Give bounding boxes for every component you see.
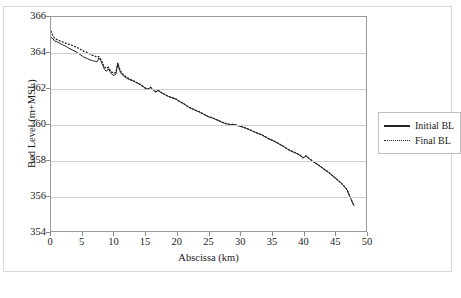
gridline xyxy=(51,161,366,162)
plot-area xyxy=(50,16,367,232)
legend-line-icon xyxy=(384,136,410,145)
y-tick-label: 356 xyxy=(30,191,46,202)
gridline xyxy=(51,197,366,198)
x-tick-label: 0 xyxy=(47,236,52,247)
series-line-initial-bl xyxy=(51,38,354,206)
legend-label: Initial BL xyxy=(415,121,454,131)
x-tick-label: 20 xyxy=(172,236,183,247)
legend-label: Final BL xyxy=(415,136,451,146)
legend-line-icon xyxy=(384,121,410,130)
x-tick-label: 10 xyxy=(108,236,119,247)
y-tick-label: 360 xyxy=(30,119,46,130)
chart-legend: Initial BLFinal BL xyxy=(378,112,461,154)
x-axis-title: Abscissa (km) xyxy=(50,252,367,263)
gridline xyxy=(51,125,366,126)
x-tick-label: 30 xyxy=(235,236,246,247)
y-tick-label: 362 xyxy=(30,83,46,94)
x-tick-label: 35 xyxy=(267,236,278,247)
y-axis-tick-labels: 354356358360362364366 xyxy=(14,16,46,232)
legend-item[interactable]: Final BL xyxy=(384,133,454,148)
y-tick-label: 358 xyxy=(30,155,46,166)
x-axis-tick-labels: 05101520253035404550 xyxy=(50,236,367,250)
y-tick-label: 366 xyxy=(30,11,46,22)
x-tick-label: 40 xyxy=(298,236,309,247)
x-tick-label: 15 xyxy=(140,236,151,247)
series-line-final-bl xyxy=(51,31,354,205)
series-svg xyxy=(51,17,366,231)
gridline xyxy=(51,89,366,90)
x-tick-label: 5 xyxy=(79,236,84,247)
legend-item[interactable]: Initial BL xyxy=(384,118,454,133)
x-tick-label: 25 xyxy=(203,236,214,247)
y-tick-label: 364 xyxy=(30,47,46,58)
x-tick-label: 45 xyxy=(330,236,341,247)
y-tick-label: 354 xyxy=(30,227,46,238)
x-tick-label: 50 xyxy=(362,236,373,247)
gridline xyxy=(51,53,366,54)
